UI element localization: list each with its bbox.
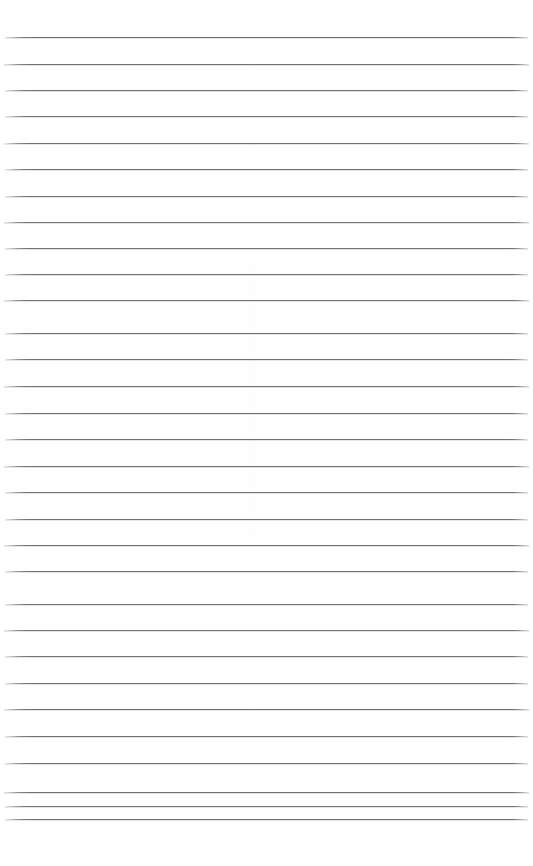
rule-line <box>5 439 528 440</box>
rule-line <box>5 683 528 684</box>
rule-line-ghost <box>5 414 528 415</box>
rule-lines-layer <box>0 0 533 866</box>
rule-line-right-fade <box>510 604 528 605</box>
rule-line-right-fade <box>510 656 528 657</box>
rule-line-right-fade <box>510 169 528 170</box>
rule-line-ghost <box>4 546 529 547</box>
rule-line-right-fade <box>510 37 528 38</box>
rule-line-left-fade <box>5 519 31 520</box>
rule-line <box>4 466 529 467</box>
rule-line <box>5 413 528 414</box>
rule-line <box>5 571 528 572</box>
rule-line-ghost <box>5 91 528 92</box>
rule-line <box>5 763 528 764</box>
rule-line-right-fade <box>510 819 528 820</box>
rule-line-left-fade <box>4 709 30 710</box>
rule-line-right-fade <box>511 792 529 793</box>
rule-line-left-fade <box>5 763 31 764</box>
rule-line-ghost <box>5 605 528 606</box>
rule-line-right-fade <box>510 519 528 520</box>
rule-line <box>5 333 528 334</box>
rule-line-right-fade <box>511 466 529 467</box>
rule-line-left-fade <box>5 169 31 170</box>
rule-line-left-fade <box>5 806 31 807</box>
rule-line-ghost <box>5 440 528 441</box>
rule-line-ghost <box>5 807 528 808</box>
rule-line <box>5 248 528 249</box>
rule-line-right-fade <box>511 143 529 144</box>
rule-line-right-fade <box>511 300 529 301</box>
rule-line-ghost <box>5 684 528 685</box>
rule-line-right-fade <box>510 763 528 764</box>
rule-line-left-fade <box>5 604 31 605</box>
rule-line-right-fade <box>510 116 528 117</box>
rule-line-left-fade <box>5 413 31 414</box>
rule-line-right-fade <box>510 196 528 197</box>
rule-line-ghost <box>5 334 528 335</box>
rule-line <box>5 519 528 520</box>
rule-line <box>4 300 529 301</box>
rule-line-right-fade <box>511 545 529 546</box>
rule-line <box>4 64 529 65</box>
rule-line-left-fade <box>4 64 30 65</box>
rule-line-left-fade <box>4 545 30 546</box>
rule-line <box>4 386 529 387</box>
rule-line <box>5 37 528 38</box>
rule-line-ghost <box>5 170 528 171</box>
rule-line-right-fade <box>510 413 528 414</box>
rule-line-left-fade <box>5 37 31 38</box>
rule-line <box>5 806 528 807</box>
rule-line <box>5 819 528 820</box>
rule-line <box>4 709 529 710</box>
rule-line-left-fade <box>4 466 30 467</box>
rule-line-left-fade <box>5 196 31 197</box>
rule-line <box>4 630 529 631</box>
rule-line-right-fade <box>511 630 529 631</box>
rule-line-left-fade <box>5 90 31 91</box>
rule-line-ghost <box>5 360 528 361</box>
rule-line-ghost <box>4 223 529 224</box>
rule-line <box>4 143 529 144</box>
rule-line-ghost <box>4 301 529 302</box>
rule-line-ghost <box>5 657 528 658</box>
rule-line-left-fade <box>5 492 31 493</box>
rule-line-left-fade <box>5 439 31 440</box>
rule-line <box>5 736 528 737</box>
lined-paper-page <box>0 0 533 866</box>
rule-line <box>5 90 528 91</box>
rule-line-ghost <box>5 764 528 765</box>
rule-line <box>5 604 528 605</box>
rule-line-left-fade <box>5 736 31 737</box>
rule-line <box>4 545 529 546</box>
rule-line-right-fade <box>510 359 528 360</box>
rule-line-right-fade <box>510 736 528 737</box>
rule-line <box>5 169 528 170</box>
rule-line <box>5 359 528 360</box>
rule-line-left-fade <box>4 386 30 387</box>
rule-line-right-fade <box>510 439 528 440</box>
rule-line <box>5 656 528 657</box>
rule-line-left-fade <box>4 792 30 793</box>
rule-line-left-fade <box>5 819 31 820</box>
rule-line-right-fade <box>510 333 528 334</box>
rule-line-left-fade <box>4 143 30 144</box>
rule-line <box>4 792 529 793</box>
rule-line-left-fade <box>4 300 30 301</box>
rule-line-right-fade <box>510 571 528 572</box>
rule-line-right-fade <box>511 64 529 65</box>
rule-line <box>5 196 528 197</box>
rule-line <box>4 222 529 223</box>
rule-line-ghost <box>4 144 529 145</box>
rule-line-right-fade <box>510 492 528 493</box>
rule-line-left-fade <box>5 333 31 334</box>
rule-line-ghost <box>4 793 529 794</box>
rule-line-ghost <box>5 249 528 250</box>
rule-line-ghost <box>5 197 528 198</box>
rule-line-left-fade <box>5 359 31 360</box>
rule-line-ghost <box>5 737 528 738</box>
rule-line-left-fade <box>4 630 30 631</box>
rule-line-ghost <box>5 275 528 276</box>
rule-line-right-fade <box>511 709 529 710</box>
rule-line-ghost <box>4 387 529 388</box>
rule-line-left-fade <box>5 683 31 684</box>
